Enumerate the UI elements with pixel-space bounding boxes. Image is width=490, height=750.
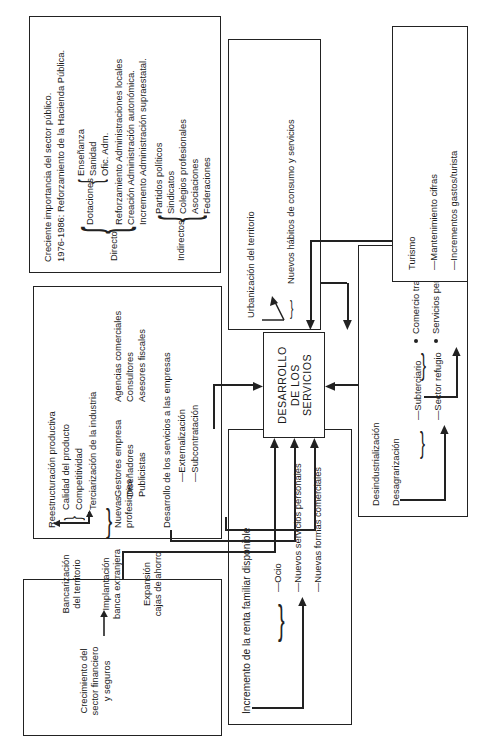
- publico-directo-1: Creación Administración autonómica.: [125, 70, 136, 225]
- turismo-head: Turismo: [406, 236, 417, 270]
- conn-industria-arrow-icon: [289, 437, 300, 451]
- connector-urbanizacion-horizontal: [347, 283, 349, 321]
- desind-brace1-icon: }: [420, 428, 425, 458]
- publico-directo-brace-icon: {: [74, 226, 134, 234]
- renta-item-0: —Ocio: [272, 563, 283, 592]
- publico-indirecto-1: Sindicatos: [165, 171, 176, 214]
- renta-elbow-h: [302, 603, 304, 709]
- desarrollo-servicios-label: DESARROLLO DE LOS SERVICIOS: [276, 332, 314, 438]
- conn-publico-v: [225, 530, 314, 532]
- publico-indirecto-2: Colegios profesionales: [177, 119, 188, 214]
- publico-directo-2: Incremento Administración supraestatal.: [137, 58, 148, 225]
- industria-prof-3: Agencias comerciales: [112, 311, 123, 402]
- publico-head2: 1976-1986: Reforzamiento de la Hacienda …: [55, 50, 66, 262]
- connector-turismo-horizontal: [310, 241, 312, 321]
- conn-financiero-arrow-icon: [269, 437, 280, 451]
- conn-publico-h0: [225, 517, 227, 531]
- conn-renta-v: [213, 385, 255, 387]
- desind-elbow2-arrow-icon: [451, 346, 462, 358]
- industria-prof-0: Gestores empresa: [112, 420, 123, 497]
- publico-directo-label: Directo: [108, 231, 119, 261]
- publico-head1: Creciente importancia del sector público…: [42, 93, 53, 262]
- financiero-crecimiento: Crecimiento del sector financiero y segu…: [78, 638, 112, 724]
- connector-turismo-vertical: [310, 241, 392, 243]
- connector-urbanizacion-arrow-icon: [342, 317, 353, 331]
- industria-arrow2-icon: [85, 508, 95, 518]
- publico-dotacion-1: Sanidad: [87, 142, 98, 176]
- desind-head1: Desindustrialización: [370, 423, 381, 506]
- urbanizacion-head: Urbanización del territorio: [245, 211, 256, 318]
- publico-indirectos-label: Indirectos: [175, 220, 186, 261]
- conn-publico-arrow-icon: [309, 437, 320, 451]
- conn-financiero-v: [122, 552, 274, 554]
- industria-prof-1: Diseñadores: [124, 444, 135, 497]
- conn-publico-h2: [314, 446, 316, 531]
- publico-dotacion-2: Ofic. Adm.: [99, 133, 110, 176]
- renta-elbow-arrow-icon: [297, 596, 308, 608]
- industria-desarrollo: Desarrollo de los servicios a las empres…: [161, 352, 172, 528]
- conn-industria-h2: [294, 446, 296, 542]
- industria-head: Reestructuración productiva: [46, 411, 57, 528]
- desind-head2: Desagrarización: [390, 438, 401, 506]
- conn-financiero-h1: [122, 551, 124, 579]
- conn-industria-v: [170, 541, 294, 543]
- industria-dev-1: —Externalización: [176, 409, 187, 482]
- industria-prof-4: Consultores: [124, 352, 135, 402]
- industria-terciarizacion: Terciarización de la industria: [87, 392, 98, 510]
- publico-indirecto-3: Asociaciones: [189, 159, 200, 214]
- financiero-implantacion: Implantación banca extranjera: [100, 538, 123, 630]
- financiero-bancarizacion: Bancarización del territorio: [60, 542, 83, 626]
- conn-desind-arrow-icon: [324, 380, 338, 392]
- desind-elbow1-arrow-icon: [439, 424, 450, 436]
- turismo-item-0: —Mantenimiento cifras: [428, 174, 439, 270]
- publico-indirecto-0: Partidos políticos: [153, 143, 164, 214]
- publico-dotaciones-brace-icon: {: [74, 179, 106, 184]
- industria-profesiones-brace-icon: }: [106, 503, 112, 537]
- renta-elbow-v: [252, 708, 302, 710]
- conn-renta-arrow-icon: [250, 380, 264, 392]
- desind-bullet-0: [414, 339, 418, 343]
- financiero-expansion: Expansión cajas de ahorro: [141, 542, 164, 626]
- desind-elbow2-v: [424, 397, 456, 399]
- conn-renta-h: [213, 385, 215, 429]
- desind-elbow1-h: [444, 431, 446, 501]
- desind-item-1: —Sector refugio: [432, 352, 443, 420]
- industria-arrow1-icon: [53, 518, 63, 528]
- industria-prof-2: Publicistas: [136, 452, 147, 497]
- renta-brace-icon: }: [278, 600, 285, 640]
- desind-brace2-icon: }: [421, 350, 426, 380]
- publico-directo-0: Reforzamiento Administraciones locales: [113, 59, 124, 225]
- box-urbanizacion: [228, 39, 321, 330]
- connector-turismo-arrow-icon: [305, 317, 316, 331]
- diagram-canvas: Crecimiento del sector financiero y segu…: [0, 0, 490, 750]
- desind-elbow2-h: [456, 353, 458, 398]
- urbanizacion-item: Nuevos hábitos de consumo y servicios: [285, 119, 296, 284]
- industria-dev-2: —Subcontratación: [189, 405, 200, 482]
- desind-elbow1-v: [400, 500, 444, 502]
- publico-dotaciones-label: Dotaciones: [84, 178, 95, 225]
- industria-b2: Competitividad: [73, 448, 84, 510]
- conn-industria-h0: [170, 530, 172, 542]
- publico-indirectos-brace-icon: {: [152, 215, 204, 222]
- industria-brace-icon: }: [62, 516, 84, 520]
- turismo-item-1: —Incrementos gastos/turista: [448, 151, 459, 270]
- renta-head: Incremento de la renta familiar disponib…: [241, 528, 253, 714]
- connector-urbanizacion-vertical: [321, 283, 347, 285]
- industria-prof-5: Asesores fiscales: [136, 329, 147, 402]
- urbanizacion-arrow-icon: [262, 292, 294, 322]
- industria-b1: Calidad del producto: [60, 424, 71, 510]
- publico-dotacion-0: Enseñanza: [75, 129, 86, 176]
- publico-indirecto-4: Federaciones: [201, 157, 212, 214]
- conn-financiero-h2: [274, 446, 276, 553]
- desind-bullet-1: [434, 339, 438, 343]
